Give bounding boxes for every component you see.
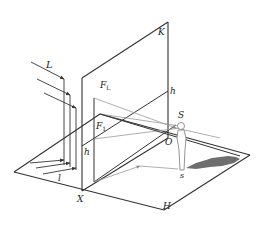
label-X: X [76, 194, 84, 204]
label-K: K [157, 27, 166, 37]
picture-plane-K [82, 22, 168, 191]
label-O: O [165, 137, 173, 147]
label-l: l [58, 173, 61, 183]
perspective-diagram: K h h FL F1 L l S O s X H [0, 0, 266, 225]
label-F-L: FL [99, 80, 110, 91]
label-h-lower: h [84, 147, 90, 157]
label-s: s [180, 171, 184, 180]
label-H: H [162, 201, 171, 211]
label-S: S [178, 110, 184, 120]
inner-plane [94, 98, 176, 182]
label-L: L [45, 59, 53, 70]
light-rays-l [30, 160, 76, 174]
ground-line [100, 114, 240, 156]
label-F-1: F1 [95, 121, 106, 132]
light-rays-L [31, 62, 76, 170]
horizon-line [82, 91, 168, 146]
label-h-upper: h [170, 86, 176, 96]
